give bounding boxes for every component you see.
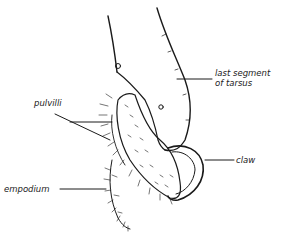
label-empodium: empodium [4,184,50,194]
empodium-shape [104,160,130,231]
leader-lines [55,79,234,189]
claw-shape [168,146,203,200]
label-last-segment-line2: of tarsus [215,78,270,88]
pulvilli-shape [99,94,181,204]
label-last-segment-line1: last segment [215,68,270,78]
label-pulvilli: pulvilli [34,98,62,108]
foot-illustration [0,0,289,237]
label-last-segment: last segment of tarsus [215,68,270,88]
label-claw: claw [236,155,255,165]
